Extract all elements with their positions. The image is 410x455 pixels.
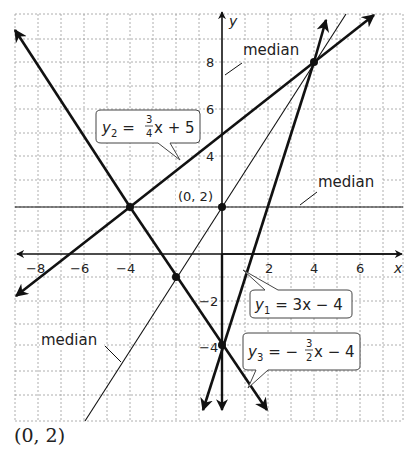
x-tick-labels: −8 −6 −4 2 4 6 [26, 261, 364, 276]
svg-text:−2: −2 [199, 294, 218, 309]
svg-text:x + 5: x + 5 [154, 119, 195, 137]
svg-text:4: 4 [206, 149, 214, 164]
svg-text:6: 6 [206, 102, 214, 117]
svg-text:3: 3 [306, 338, 312, 349]
svg-text:x − 4: x − 4 [314, 343, 355, 361]
svg-text:2: 2 [306, 352, 312, 363]
svg-text:−6: −6 [70, 261, 89, 276]
point-label: (0, 2) [178, 189, 213, 204]
y-axis-label: y [228, 13, 238, 29]
svg-text:4: 4 [310, 261, 318, 276]
y-tick-labels: 8 6 4 −2 −4 [199, 55, 218, 355]
svg-text:2: 2 [265, 261, 273, 276]
line-y2-lower [16, 207, 130, 296]
callout-y2: y2= 3 4 x + 5 [96, 110, 200, 160]
median-label-right: median [300, 172, 382, 205]
svg-text:y3= −: y3= − [247, 343, 298, 363]
svg-text:3: 3 [146, 114, 152, 125]
answer-caption: (0, 2) [14, 424, 65, 446]
svg-text:4: 4 [146, 128, 152, 139]
svg-text:6: 6 [356, 261, 364, 276]
svg-text:8: 8 [206, 55, 214, 70]
median-label-left: median [40, 331, 121, 362]
median-label-top: median [225, 40, 306, 75]
svg-text:−8: −8 [26, 261, 45, 276]
svg-text:median: median [318, 173, 374, 191]
svg-text:median: median [41, 331, 97, 349]
coordinate-graph: −8 −6 −4 2 4 6 8 6 4 −2 −4 x y (0, 2) me… [0, 0, 410, 424]
svg-text:−4: −4 [199, 340, 218, 355]
callout-y3: y3= − 3 2 x − 4 [243, 333, 360, 388]
x-axis-label: x [393, 260, 403, 276]
svg-text:median: median [243, 41, 299, 59]
svg-text:−4: −4 [116, 261, 135, 276]
